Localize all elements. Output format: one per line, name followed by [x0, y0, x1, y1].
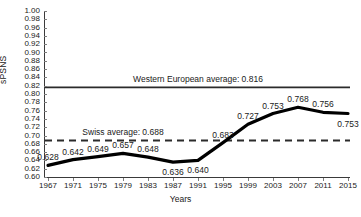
y-tick-mark — [44, 69, 47, 70]
y-tick-mark — [44, 77, 47, 78]
y-tick-mark — [44, 28, 47, 29]
y-tick-label: 0.60 — [14, 173, 40, 181]
x-tick-label: 1991 — [189, 181, 207, 190]
y-tick-label: 0.92 — [14, 40, 40, 48]
data-point-label: 0.642 — [62, 147, 83, 157]
y-tick-mark — [44, 86, 47, 87]
x-tick-label: 1983 — [139, 181, 157, 190]
y-tick-mark — [44, 177, 47, 178]
x-tick-label: 1987 — [164, 181, 182, 190]
y-tick-mark — [44, 119, 47, 120]
reference-line-label-swiss-average: Swiss average: 0.688 — [82, 127, 163, 137]
data-point-label: 0.657 — [112, 140, 133, 150]
x-axis-title: Years — [0, 194, 361, 204]
y-tick-label: 0.72 — [14, 123, 40, 131]
y-tick-mark — [44, 136, 47, 137]
x-tick-label: 1999 — [239, 181, 257, 190]
y-tick-mark — [44, 11, 47, 12]
y-tick-mark — [44, 111, 47, 112]
y-tick-mark — [44, 52, 47, 53]
reference-line-label-western-european-average: Western European average: 0.816 — [133, 74, 263, 84]
x-tick-label: 2007 — [289, 181, 307, 190]
data-point-label: 0.727 — [237, 111, 258, 121]
data-point-label: 0.648 — [137, 144, 158, 154]
y-tick-mark — [44, 61, 47, 62]
x-axis-tick-labels: 1967197119751979198319871991199519992003… — [0, 181, 361, 193]
y-axis-title: sPSNS — [0, 24, 8, 84]
y-tick-mark — [44, 44, 47, 45]
x-tick-label: 1971 — [64, 181, 82, 190]
data-point-label: 0.768 — [287, 94, 308, 104]
data-point-label: 0.683 — [212, 130, 233, 140]
y-tick-mark — [44, 127, 47, 128]
x-tick-label: 2003 — [264, 181, 282, 190]
data-point-label: 0.640 — [187, 165, 208, 175]
data-point-label: 0.649 — [87, 144, 108, 154]
x-tick-label: 1967 — [39, 181, 57, 190]
y-tick-mark — [44, 94, 47, 95]
x-tick-label: 1995 — [214, 181, 232, 190]
chart-container: sPSNS 1.000.980.960.940.920.900.880.860.… — [0, 0, 361, 217]
data-point-label: 0.753 — [262, 101, 283, 111]
x-tick-label: 2011 — [314, 181, 331, 190]
data-point-label: 0.753 — [337, 119, 358, 129]
y-tick-mark — [44, 169, 47, 170]
y-tick-mark — [44, 102, 47, 103]
y-tick-mark — [44, 144, 47, 145]
x-tick-label: 2015 — [339, 181, 357, 190]
data-point-label: 0.636 — [162, 167, 183, 177]
y-tick-mark — [44, 19, 47, 20]
x-tick-label: 1975 — [89, 181, 107, 190]
x-tick-label: 1979 — [114, 181, 132, 190]
data-point-label: 0.628 — [37, 152, 58, 162]
data-point-label: 0.756 — [312, 99, 333, 109]
y-tick-mark — [44, 36, 47, 37]
